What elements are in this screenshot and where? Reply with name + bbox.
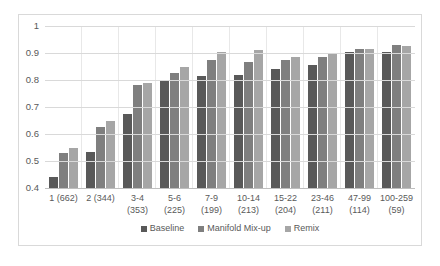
- x-axis-tick-label: 7-9 (199): [193, 192, 230, 216]
- bar: [217, 52, 226, 188]
- bar: [123, 114, 132, 188]
- legend-label: Remix: [294, 224, 320, 233]
- legend-swatch-icon: [141, 226, 147, 232]
- legend-label: Manifold Mix-up: [207, 224, 271, 233]
- legend-label: Baseline: [150, 224, 185, 233]
- legend-swatch-icon: [198, 226, 204, 232]
- bar: [69, 148, 78, 189]
- bar: [271, 69, 280, 188]
- y-axis-tick-label: 1: [34, 21, 39, 31]
- x-axis-tick-label: 2 (344): [82, 192, 119, 216]
- bar: [345, 52, 354, 188]
- bar: [254, 50, 263, 188]
- bar: [402, 46, 411, 188]
- plot-area: 10.90.80.70.60.50.4: [45, 26, 415, 188]
- bar: [281, 60, 290, 188]
- y-axis-tick-label: 0.5: [26, 156, 39, 166]
- bar: [180, 67, 189, 189]
- x-axis-tick-label: 3-4 (353): [119, 192, 156, 216]
- x-axis-tick-label: 15-22 (204): [267, 192, 304, 216]
- gridline-1: [45, 26, 415, 27]
- bar: [318, 57, 327, 188]
- bar: [328, 54, 337, 188]
- y-axis-tick-label: 0.9: [26, 48, 39, 58]
- bar: [86, 152, 95, 188]
- x-axis-tick-label: 5-6 (225): [156, 192, 193, 216]
- y-axis-tick-label: 0.8: [26, 75, 39, 85]
- bar: [133, 85, 142, 188]
- y-axis-tick-label: 0.4: [26, 183, 39, 193]
- gridline-0.7: [45, 107, 415, 108]
- legend-item[interactable]: Remix: [285, 224, 320, 233]
- bar: [291, 57, 300, 188]
- legend-item[interactable]: Manifold Mix-up: [198, 224, 271, 233]
- gridline-0.6: [45, 134, 415, 135]
- bar-chart: 10.90.80.70.60.50.4 1 (662)2 (344)3-4 (3…: [0, 0, 440, 266]
- bar: [234, 75, 243, 188]
- bar: [59, 153, 68, 188]
- legend-swatch-icon: [285, 226, 291, 232]
- x-axis-tick-label: 100-259 (59): [378, 192, 415, 216]
- bar: [96, 127, 105, 188]
- bar: [355, 49, 364, 188]
- bar: [197, 76, 206, 188]
- bar: [170, 73, 179, 188]
- bar: [392, 45, 401, 188]
- gridline-0.8: [45, 80, 415, 81]
- y-axis-tick-label: 0.6: [26, 129, 39, 139]
- bar: [106, 121, 115, 189]
- gridline-0.4: [45, 188, 415, 189]
- x-axis-tick-label: 10-14 (213): [230, 192, 267, 216]
- gridline-0.9: [45, 53, 415, 54]
- bar: [143, 83, 152, 188]
- bar: [244, 62, 253, 188]
- x-axis-labels: 1 (662)2 (344)3-4 (353)5-6 (225)7-9 (199…: [45, 192, 415, 216]
- y-axis-tick-label: 0.7: [26, 102, 39, 112]
- x-axis-tick-label: 23-46 (211): [304, 192, 341, 216]
- bar: [365, 49, 374, 188]
- x-axis-tick-label: 1 (662): [45, 192, 82, 216]
- bar: [382, 52, 391, 188]
- bar: [49, 177, 58, 188]
- x-axis-tick-label: 47-99 (114): [341, 192, 378, 216]
- bar: [207, 60, 216, 188]
- chart-legend: BaselineManifold Mix-upRemix: [45, 224, 415, 233]
- legend-item[interactable]: Baseline: [141, 224, 185, 233]
- gridline-0.5: [45, 161, 415, 162]
- bar: [308, 65, 317, 188]
